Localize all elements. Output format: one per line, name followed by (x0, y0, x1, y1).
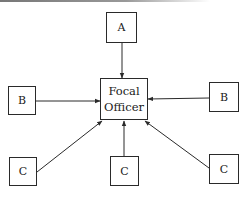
node-c-left-label: C (19, 164, 27, 179)
focal-label-line2: Officer (104, 99, 144, 115)
node-b-right: B (209, 82, 239, 112)
node-c-right-label: C (220, 162, 228, 177)
focal-label-line1: Focal (108, 83, 139, 99)
edge-b-right-to-focal (148, 98, 209, 99)
node-c-center: C (110, 156, 139, 186)
node-a-label: A (118, 20, 126, 35)
node-c-left: C (9, 157, 37, 186)
node-c-center-label: C (120, 164, 128, 179)
node-c-right: C (209, 154, 239, 184)
node-b-right-label: B (220, 90, 228, 105)
edge-c-left-to-focal (37, 121, 102, 172)
node-a: A (106, 12, 137, 43)
node-b-left-label: B (18, 93, 26, 108)
node-focal-officer: Focal Officer (100, 78, 148, 120)
node-b-left: B (8, 86, 36, 115)
edge-c-right-to-focal (145, 121, 209, 168)
